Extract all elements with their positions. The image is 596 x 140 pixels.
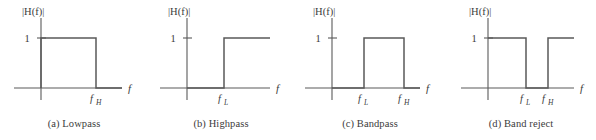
y-level-label: 1 (24, 33, 29, 44)
plot-bandpass: |H(f)| 1 f f L f H (294, 0, 446, 115)
response-curve-lowpass (41, 38, 122, 88)
x-tick-label-fh: f H (398, 93, 410, 107)
y-level-label: 1 (170, 33, 175, 44)
svg-text:H: H (95, 98, 102, 107)
y-axis-label: |H(f)| (313, 6, 335, 18)
x-axis-label: f (276, 82, 281, 94)
x-tick-label-fl: f L (520, 93, 530, 107)
svg-text:L: L (363, 98, 368, 107)
svg-text:f: f (542, 93, 547, 104)
highpass-svg: |H(f)| 1 f f L (148, 0, 294, 115)
bandpass-svg: |H(f)| 1 f f L f H (294, 0, 446, 115)
lowpass-svg: |H(f)| 1 f f H (0, 0, 148, 115)
panel-lowpass: |H(f)| 1 f f H (a) Lowpass (0, 0, 148, 140)
y-level-label: 1 (315, 33, 320, 44)
svg-text:L: L (223, 98, 228, 107)
x-tick-label-fh: f H (90, 93, 102, 107)
caption-lowpass: (a) Lowpass (0, 118, 148, 129)
response-curve-band-reject (488, 38, 574, 88)
caption-bandpass: (c) Bandpass (294, 118, 446, 129)
panel-bandpass: |H(f)| 1 f f L f H (c) Bandpass (294, 0, 446, 140)
x-tick-label-fh: f H (542, 93, 554, 107)
x-axis-label: f (128, 82, 133, 94)
y-axis-label: |H(f)| (22, 6, 44, 18)
x-axis-label: f (580, 82, 585, 94)
filter-response-figure: |H(f)| 1 f f H (a) Lowpass |H(f)| 1 f (0, 0, 596, 140)
x-tick-label-fl: f L (358, 93, 368, 107)
band-reject-svg: |H(f)| 1 f f L f H (446, 0, 596, 115)
plot-lowpass: |H(f)| 1 f f H (0, 0, 148, 115)
svg-text:f: f (520, 93, 525, 104)
caption-band-reject: (d) Band reject (446, 118, 596, 129)
plot-band-reject: |H(f)| 1 f f L f H (446, 0, 596, 115)
y-axis-label: |H(f)| (168, 6, 190, 18)
plot-highpass: |H(f)| 1 f f L (148, 0, 294, 115)
x-axis-label: f (426, 82, 431, 94)
response-curve-bandpass (332, 38, 420, 88)
y-axis-label: |H(f)| (469, 6, 491, 18)
svg-text:f: f (218, 93, 223, 104)
svg-text:f: f (90, 93, 95, 104)
svg-text:f: f (358, 93, 363, 104)
response-curve-highpass (187, 38, 270, 88)
panel-band-reject: |H(f)| 1 f f L f H (d) Band reject (446, 0, 596, 140)
x-tick-label-fl: f L (218, 93, 228, 107)
svg-text:H: H (547, 98, 554, 107)
y-level-label: 1 (471, 33, 476, 44)
caption-highpass: (b) Highpass (148, 118, 294, 129)
svg-text:L: L (525, 98, 530, 107)
svg-text:f: f (398, 93, 403, 104)
svg-text:H: H (403, 98, 410, 107)
panel-highpass: |H(f)| 1 f f L (b) Highpass (148, 0, 294, 140)
